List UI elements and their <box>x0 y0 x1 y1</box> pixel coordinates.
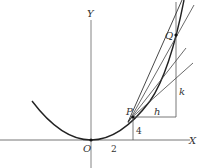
parabola-diagram: Y X O P Q 2 4 h k <box>0 0 202 168</box>
point-o <box>89 138 92 141</box>
k-label: k <box>179 86 185 97</box>
height-label: 4 <box>136 126 142 136</box>
parabola-curve <box>32 0 184 140</box>
y-axis-label: Y <box>87 8 95 19</box>
point-q-label: Q <box>165 30 173 41</box>
h-label: h <box>154 106 160 117</box>
point-q <box>174 33 177 36</box>
point-p-label: P <box>125 106 133 117</box>
x-axis-label: X <box>188 135 197 146</box>
x-tick-label: 2 <box>111 144 117 154</box>
tangent-line <box>128 0 182 122</box>
origin-label: O <box>83 143 91 154</box>
secant-line-pq <box>128 5 194 123</box>
